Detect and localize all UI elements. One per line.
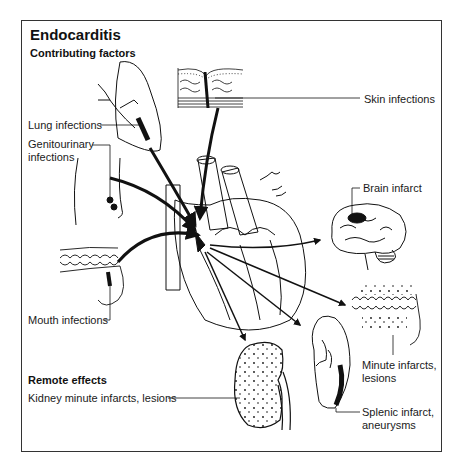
teeth-illustration [352,285,420,345]
label-brain-infarct: Brain infarct [363,181,422,195]
label-splenic-line2: aneurysms [362,418,416,432]
kidney-illustration [235,342,291,430]
label-minute-infarcts-line1: Minute infarcts, [362,358,437,372]
section-contributing-factors: Contributing factors [30,47,136,59]
label-lung-infections: Lung infections [28,118,102,132]
heart-illustration [166,156,306,330]
diagram-title: Endocarditis [30,26,121,43]
genitourinary-leader [92,145,110,200]
brain-illustration [332,204,406,270]
label-splenic-line1: Splenic infarct, [362,405,434,419]
splenic-leader [336,408,360,412]
arrow-minute-infarcts [210,248,345,305]
lung-illustration [98,62,161,152]
arrow-mouth [118,233,198,262]
label-skin-infections: Skin infections [364,92,435,106]
spleen-illustration [312,316,350,408]
arrow-skin [200,108,218,218]
arrow-lung [150,148,195,225]
section-remote-effects: Remote effects [28,374,107,386]
label-genitourinary-line1: Genitourinary [28,137,94,151]
label-mouth-infections: Mouth infections [28,313,108,327]
brain-leader [352,188,360,215]
label-kidney: Kidney minute infarcts, lesions [28,391,177,405]
label-minute-infarcts-line2: lesions [362,371,396,385]
label-genitourinary-line2: infections [28,150,74,164]
genitourinary-illustration [74,158,122,225]
mouth-illustration [60,247,124,305]
skin-illustration [178,68,243,108]
arrow-brain [210,240,320,248]
